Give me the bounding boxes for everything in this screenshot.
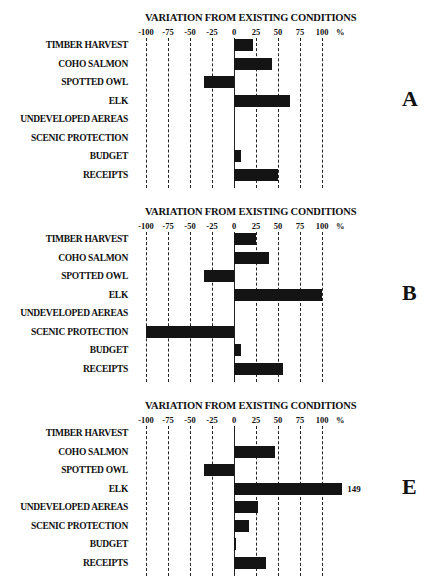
grid-line xyxy=(300,38,301,188)
grid-line xyxy=(212,38,213,188)
category-label: BUDGET xyxy=(90,539,128,549)
chart-panel-e: VARIATION FROM EXISTING CONDITIONS-100-7… xyxy=(0,388,441,582)
x-tick-label: 50 xyxy=(274,27,283,37)
grid-line xyxy=(190,38,191,188)
grid-line xyxy=(190,232,191,382)
panel-letter: B xyxy=(402,280,417,306)
bar xyxy=(234,344,241,356)
chart-title: VARIATION FROM EXISTING CONDITIONS xyxy=(145,206,355,217)
value-annotation: 149 xyxy=(347,484,361,494)
bar xyxy=(204,270,234,282)
x-tick-label: -50 xyxy=(184,415,195,425)
unit-label: % xyxy=(336,221,345,231)
grid-line xyxy=(146,426,147,576)
x-tick-label: -100 xyxy=(138,221,154,231)
grid-line xyxy=(168,232,169,382)
grid-line xyxy=(322,232,323,382)
grid-line xyxy=(146,232,147,382)
bar xyxy=(234,501,258,513)
grid-line xyxy=(212,426,213,576)
category-label: BUDGET xyxy=(90,151,128,161)
x-tick-label: -100 xyxy=(138,415,154,425)
category-label: RECEIPTS xyxy=(83,364,128,374)
grid-line xyxy=(300,426,301,576)
grid-line xyxy=(278,232,279,382)
panel-letter: A xyxy=(402,86,418,112)
category-label: SCENIC PROTECTION xyxy=(31,327,128,337)
x-tick-label: 75 xyxy=(296,27,305,37)
chart-title: VARIATION FROM EXISTING CONDITIONS xyxy=(145,400,355,411)
grid-line xyxy=(146,38,147,188)
bar xyxy=(234,363,283,375)
bar xyxy=(234,169,278,181)
grid-line xyxy=(300,232,301,382)
category-label: ELK xyxy=(109,290,128,300)
category-label: ELK xyxy=(109,484,128,494)
x-tick-label: 25 xyxy=(252,27,261,37)
bar xyxy=(234,150,241,162)
x-tick-label: -75 xyxy=(162,221,173,231)
bar xyxy=(234,483,342,495)
category-label: RECEIPTS xyxy=(83,170,128,180)
bar xyxy=(234,58,272,70)
grid-line xyxy=(168,38,169,188)
x-tick-label: 100 xyxy=(316,221,329,231)
grid-line xyxy=(190,426,191,576)
bar xyxy=(204,76,234,88)
category-label: SCENIC PROTECTION xyxy=(31,133,128,143)
category-label: RECEIPTS xyxy=(83,558,128,568)
x-tick-label: 100 xyxy=(316,27,329,37)
x-tick-label: -75 xyxy=(162,415,173,425)
bar xyxy=(146,326,234,338)
category-label: SPOTTED OWL xyxy=(61,465,128,475)
x-tick-label: -100 xyxy=(138,27,154,37)
bar xyxy=(234,538,236,550)
category-label: UNDEVELOPED AEREAS xyxy=(20,308,128,318)
category-label: UNDEVELOPED AEREAS xyxy=(20,114,128,124)
bar xyxy=(204,464,234,476)
x-tick-label: 75 xyxy=(296,415,305,425)
bar xyxy=(234,39,253,51)
bar xyxy=(234,289,322,301)
category-label: TIMBER HARVEST xyxy=(46,40,128,50)
category-label: SPOTTED OWL xyxy=(61,271,128,281)
bar xyxy=(234,446,275,458)
x-tick-label: -25 xyxy=(206,27,217,37)
bar xyxy=(234,520,249,532)
chart-panel-a: VARIATION FROM EXISTING CONDITIONS-100-7… xyxy=(0,0,441,194)
category-label: TIMBER HARVEST xyxy=(46,428,128,438)
x-tick-label: 25 xyxy=(252,415,261,425)
chart-panel-b: VARIATION FROM EXISTING CONDITIONS-100-7… xyxy=(0,194,441,388)
x-tick-label: 50 xyxy=(274,415,283,425)
category-label: SCENIC PROTECTION xyxy=(31,521,128,531)
chart-title: VARIATION FROM EXISTING CONDITIONS xyxy=(145,12,355,23)
x-tick-label: -25 xyxy=(206,415,217,425)
category-label: COHO SALMON xyxy=(58,447,128,457)
unit-label: % xyxy=(336,27,345,37)
unit-label: % xyxy=(336,415,345,425)
x-tick-label: -50 xyxy=(184,221,195,231)
bar xyxy=(234,95,290,107)
category-label: BUDGET xyxy=(90,345,128,355)
category-label: COHO SALMON xyxy=(58,59,128,69)
grid-line xyxy=(322,426,323,576)
grid-line xyxy=(278,426,279,576)
bar xyxy=(234,252,269,264)
x-tick-label: 0 xyxy=(232,27,236,37)
category-label: COHO SALMON xyxy=(58,253,128,263)
x-tick-label: 75 xyxy=(296,221,305,231)
panel-letter: E xyxy=(402,474,417,500)
x-tick-label: -75 xyxy=(162,27,173,37)
x-tick-label: -25 xyxy=(206,221,217,231)
category-label: UNDEVELOPED AEREAS xyxy=(20,502,128,512)
category-label: TIMBER HARVEST xyxy=(46,234,128,244)
grid-line xyxy=(168,426,169,576)
bar xyxy=(234,557,266,569)
x-tick-label: 25 xyxy=(252,221,261,231)
grid-line xyxy=(322,38,323,188)
category-label: SPOTTED OWL xyxy=(61,77,128,87)
category-label: ELK xyxy=(109,96,128,106)
bar xyxy=(234,233,256,245)
x-tick-label: 100 xyxy=(316,415,329,425)
x-tick-label: 50 xyxy=(274,221,283,231)
